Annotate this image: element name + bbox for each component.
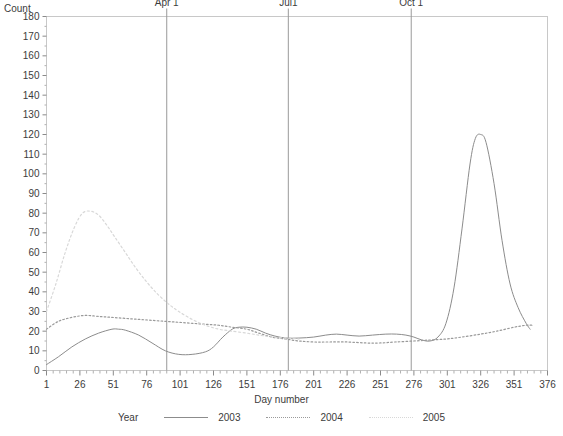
- x-tick-label: 376: [539, 379, 556, 390]
- x-tick-label: 126: [205, 379, 222, 390]
- legend-swatch-2005: [369, 413, 413, 423]
- x-tick-label: 1: [44, 379, 50, 390]
- y-tick-label: 30: [28, 306, 40, 317]
- series-line-2005: [47, 211, 300, 339]
- y-tick-label: 20: [28, 326, 40, 337]
- y-tick-label: 150: [23, 70, 40, 81]
- chart-plot-area: 0102030405060708090100110120130140150160…: [0, 0, 563, 436]
- reference-line-label: Jul1: [279, 0, 298, 8]
- y-tick-label: 70: [28, 227, 40, 238]
- legend-swatch-2003: [164, 413, 208, 423]
- legend-swatch-2004: [266, 413, 310, 423]
- y-tick-label: 160: [23, 50, 40, 61]
- y-tick-label: 130: [23, 109, 40, 120]
- x-tick-label: 301: [439, 379, 456, 390]
- y-tick-label: 50: [28, 267, 40, 278]
- plot-frame: [47, 17, 548, 371]
- legend-label-2004: 2004: [320, 412, 342, 423]
- y-tick-label: 0: [34, 365, 40, 376]
- x-tick-label: 201: [305, 379, 322, 390]
- x-tick-label: 101: [172, 379, 189, 390]
- reference-line-label: Oct 1: [399, 0, 423, 8]
- x-tick-label: 176: [272, 379, 289, 390]
- x-tick-label: 51: [108, 379, 120, 390]
- legend-label-2003: 2003: [218, 412, 240, 423]
- chart-legend: Year 200320042005: [0, 412, 563, 423]
- y-tick-label: 110: [24, 149, 40, 160]
- legend-label-2005: 2005: [423, 412, 445, 423]
- y-tick-label: 90: [28, 188, 40, 199]
- y-tick-label: 120: [23, 129, 40, 140]
- legend-entry-2003[interactable]: 2003: [164, 412, 240, 423]
- y-tick-label: 180: [23, 11, 40, 22]
- x-tick-label: 26: [74, 379, 86, 390]
- y-tick-label: 100: [23, 168, 40, 179]
- chart-container: Count 0102030405060708090100110120130140…: [0, 0, 563, 436]
- x-tick-label: 76: [141, 379, 153, 390]
- y-tick-label: 80: [28, 208, 40, 219]
- x-axis-title: Day number: [0, 394, 563, 405]
- x-tick-label: 276: [406, 379, 423, 390]
- y-tick-label: 10: [28, 345, 40, 356]
- x-tick-label: 326: [472, 379, 489, 390]
- x-tick-label: 251: [372, 379, 389, 390]
- x-tick-label: 226: [339, 379, 356, 390]
- y-tick-label: 140: [23, 90, 40, 101]
- legend-title: Year: [118, 412, 138, 423]
- legend-entry-2004[interactable]: 2004: [266, 412, 342, 423]
- legend-entry-2005[interactable]: 2005: [369, 412, 445, 423]
- y-tick-label: 40: [28, 286, 40, 297]
- y-tick-label: 170: [23, 31, 40, 42]
- reference-line-label: Apr 1: [155, 0, 179, 8]
- x-tick-label: 351: [506, 379, 523, 390]
- y-tick-label: 60: [28, 247, 40, 258]
- x-tick-label: 151: [239, 379, 256, 390]
